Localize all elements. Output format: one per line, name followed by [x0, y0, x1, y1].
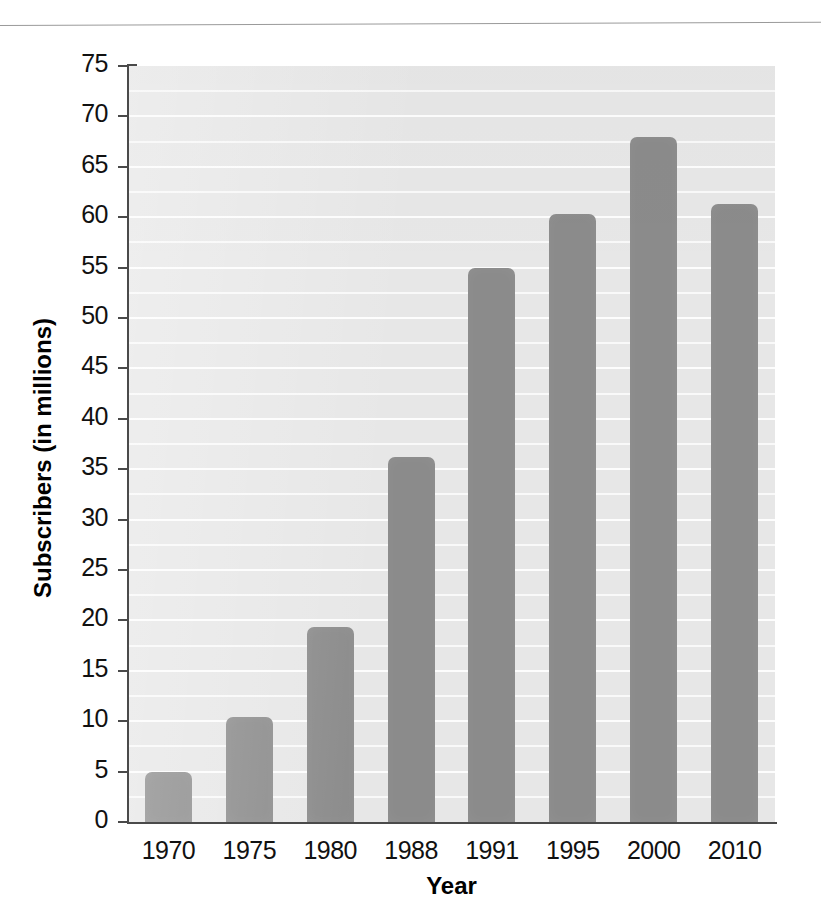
- gridline: [128, 317, 775, 319]
- y-tick-label-60: 60: [54, 200, 108, 229]
- y-tick: [118, 367, 128, 369]
- y-tick: [118, 569, 128, 571]
- y-axis-top-cap: [127, 64, 137, 66]
- bar-1970: [145, 772, 192, 822]
- gridline: [128, 393, 775, 395]
- gridline: [128, 720, 775, 722]
- y-tick: [118, 519, 128, 521]
- gridline: [128, 191, 775, 193]
- y-tick-label-15: 15: [54, 654, 108, 683]
- y-tick: [118, 619, 128, 621]
- gridline: [128, 267, 775, 269]
- gridline: [128, 519, 775, 521]
- y-tick: [118, 216, 128, 218]
- gridline: [128, 645, 775, 647]
- gridline: [128, 468, 775, 470]
- y-tick-label-35: 35: [54, 452, 108, 481]
- y-tick-label-30: 30: [54, 503, 108, 532]
- y-tick-label-75: 75: [54, 49, 108, 78]
- gridline: [128, 670, 775, 672]
- y-tick-label-70: 70: [54, 99, 108, 128]
- y-tick: [118, 670, 128, 672]
- gridline: [128, 544, 775, 546]
- gridline: [128, 443, 775, 445]
- y-tick-label-0: 0: [54, 805, 108, 834]
- bar-1975: [226, 717, 273, 822]
- y-tick: [118, 468, 128, 470]
- y-tick: [118, 821, 128, 823]
- gridline: [128, 569, 775, 571]
- x-axis-title: Year: [128, 872, 775, 900]
- y-axis-title: Subscribers (in millions): [29, 248, 57, 668]
- gridline: [128, 166, 775, 168]
- scanned-chart-page: 051015202530354045505560657075 197019751…: [0, 0, 821, 922]
- y-tick-label-20: 20: [54, 603, 108, 632]
- y-tick: [118, 166, 128, 168]
- y-tick-label-50: 50: [54, 301, 108, 330]
- bar-chart: 051015202530354045505560657075 197019751…: [0, 0, 821, 922]
- y-tick-label-55: 55: [54, 251, 108, 280]
- y-tick-label-10: 10: [54, 704, 108, 733]
- y-tick: [118, 418, 128, 420]
- gridline: [128, 141, 775, 143]
- bar-1988: [388, 457, 435, 822]
- y-tick: [118, 65, 128, 67]
- plot-area: [128, 66, 775, 822]
- bar-2000: [630, 137, 677, 822]
- gridline: [128, 594, 775, 596]
- y-axis-line: [127, 64, 129, 824]
- bar-1995: [549, 214, 596, 822]
- gridline: [128, 418, 775, 420]
- gridline: [128, 342, 775, 344]
- y-tick: [118, 115, 128, 117]
- y-tick-label-40: 40: [54, 402, 108, 431]
- gridline: [128, 115, 775, 117]
- gridline: [128, 292, 775, 294]
- gridline: [128, 695, 775, 697]
- gridline: [128, 493, 775, 495]
- gridline: [128, 367, 775, 369]
- bar-1980: [307, 627, 354, 822]
- x-axis-line: [127, 822, 777, 824]
- y-tick: [118, 720, 128, 722]
- gridline: [128, 619, 775, 621]
- gridline: [128, 241, 775, 243]
- gridline: [128, 216, 775, 218]
- y-tick-label-65: 65: [54, 150, 108, 179]
- gridline: [128, 90, 775, 92]
- y-tick-label-45: 45: [54, 351, 108, 380]
- y-tick-label-25: 25: [54, 553, 108, 582]
- bar-2010: [711, 204, 758, 822]
- x-tick-label-2010: 2010: [685, 836, 785, 865]
- y-tick: [118, 771, 128, 773]
- y-tick: [118, 267, 128, 269]
- y-tick: [118, 317, 128, 319]
- bar-1991: [468, 268, 515, 822]
- y-tick-label-5: 5: [54, 755, 108, 784]
